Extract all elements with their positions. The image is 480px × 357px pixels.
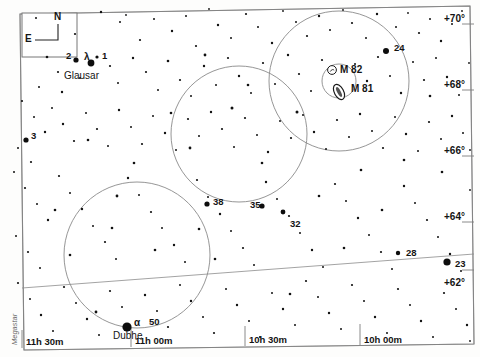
field-star — [381, 209, 384, 212]
field-star — [75, 302, 77, 304]
field-star — [407, 12, 409, 14]
field-star — [96, 128, 98, 130]
field-star — [426, 219, 428, 221]
field-star — [17, 147, 19, 149]
field-star — [227, 57, 229, 59]
field-star — [46, 56, 49, 59]
field-star — [458, 94, 460, 96]
star-label-2: 2 — [66, 50, 71, 61]
star-label-35: 35 — [250, 199, 261, 210]
field-star — [170, 112, 173, 115]
field-star — [334, 183, 336, 185]
field-star — [468, 62, 470, 64]
dso-label-m81: M 81 — [351, 83, 373, 94]
field-star — [231, 107, 234, 110]
field-star — [58, 175, 60, 177]
labeled-star-38 — [204, 201, 209, 206]
ra-tick-label: 11h 00m — [135, 335, 173, 346]
field-star — [187, 118, 189, 120]
field-star — [69, 192, 71, 194]
field-star — [366, 80, 368, 82]
star-label-50: 50 — [149, 316, 160, 327]
field-star — [85, 112, 87, 114]
field-star — [190, 300, 192, 302]
field-star — [389, 75, 391, 77]
ra-tick-label: 11h 30m — [26, 336, 64, 347]
field-star — [248, 320, 250, 322]
field-star — [382, 147, 384, 149]
field-star — [469, 189, 471, 191]
field-star — [351, 284, 353, 286]
labeled-star-1 — [95, 55, 98, 58]
ra-tick-label: 10h 00m — [364, 334, 402, 345]
field-star — [144, 294, 146, 296]
labeled-star-24 — [383, 48, 389, 54]
field-star — [145, 71, 147, 73]
compass-north-label: N — [54, 11, 61, 22]
field-star — [345, 200, 347, 202]
field-star — [179, 284, 181, 286]
field-star — [109, 290, 111, 292]
field-star — [157, 89, 159, 91]
star-label-α: α — [134, 317, 140, 328]
field-star — [429, 95, 432, 98]
field-star — [214, 258, 217, 261]
star-label-λ: λ — [84, 51, 90, 62]
field-star — [412, 61, 414, 63]
field-star — [420, 320, 422, 322]
field-star — [400, 92, 402, 94]
m82-galaxy-icon — [328, 66, 337, 75]
field-star — [63, 286, 65, 288]
field-star — [35, 17, 37, 19]
field-star — [428, 121, 430, 123]
field-star — [302, 114, 304, 116]
labeled-star-23 — [443, 258, 450, 265]
field-star — [294, 324, 296, 326]
field-star — [130, 126, 132, 128]
field-star — [154, 249, 157, 252]
field-star — [104, 241, 106, 243]
field-star — [54, 209, 57, 212]
field-star — [87, 139, 90, 142]
field-star — [440, 138, 442, 140]
field-star — [121, 306, 123, 308]
field-star — [141, 143, 143, 145]
field-star — [210, 111, 212, 113]
field-star — [360, 169, 363, 172]
field-star — [133, 162, 136, 165]
field-star — [230, 230, 232, 232]
field-star — [289, 293, 292, 296]
field-star — [236, 304, 238, 306]
field-star — [363, 300, 365, 302]
credit-watermark: Megastar — [10, 314, 19, 345]
field-star — [469, 149, 471, 151]
field-star — [57, 71, 59, 73]
field-star — [461, 10, 463, 12]
field-star — [61, 91, 63, 93]
field-star — [40, 314, 42, 316]
field-star — [179, 79, 181, 81]
star-label-1: 1 — [102, 50, 107, 61]
field-star — [107, 145, 109, 147]
field-star — [313, 131, 315, 133]
field-star — [36, 203, 38, 205]
field-star — [359, 113, 361, 115]
field-star — [17, 282, 19, 284]
field-star — [469, 340, 471, 342]
labeled-star-32 — [281, 210, 286, 215]
field-star — [295, 21, 297, 23]
field-star — [374, 316, 376, 318]
field-star — [190, 95, 192, 97]
field-star — [409, 304, 411, 306]
field-star — [208, 8, 210, 10]
field-star — [306, 35, 308, 37]
field-star — [171, 30, 173, 32]
field-star — [150, 211, 152, 213]
field-star — [30, 161, 32, 163]
field-star — [318, 195, 321, 198]
field-star — [351, 22, 353, 24]
field-star — [245, 13, 247, 15]
labeled-star-3 — [23, 137, 28, 142]
field-star — [225, 288, 227, 290]
field-star — [21, 100, 23, 102]
